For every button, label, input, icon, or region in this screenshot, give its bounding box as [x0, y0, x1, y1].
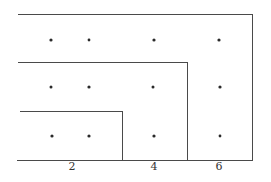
dot — [50, 86, 53, 89]
nested-rectangles-diagram: 2 4 6 — [0, 0, 271, 182]
dot — [50, 134, 53, 137]
axis-label-2: 2 — [69, 160, 76, 173]
inner-region — [20, 111, 123, 161]
dot — [49, 38, 52, 41]
dot — [152, 134, 155, 137]
dot — [152, 38, 155, 41]
outer-region — [18, 14, 253, 161]
dot — [87, 134, 90, 137]
dot — [218, 85, 221, 88]
dot — [152, 86, 155, 89]
dot — [87, 85, 90, 88]
dot-grid — [49, 38, 221, 137]
dot — [217, 38, 220, 41]
axis-label-6: 6 — [216, 160, 223, 173]
dot — [88, 39, 91, 42]
dot — [219, 135, 222, 138]
axis-label-4: 4 — [151, 160, 158, 173]
